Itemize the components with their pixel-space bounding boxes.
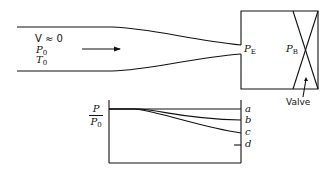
curve-label-b: b	[245, 115, 251, 125]
valve-label: Valve	[286, 98, 310, 107]
curve-label-a: a	[245, 104, 251, 114]
nozzle-diagram	[0, 0, 333, 172]
plot-ylabel: P P0	[89, 104, 103, 127]
valve-pointer	[303, 79, 306, 97]
flow-arrow-head	[114, 47, 121, 52]
curve-label-c: c	[245, 127, 251, 137]
exit-pressure-label: PE	[244, 44, 256, 54]
nozzle-bottom-wall	[17, 54, 241, 71]
curve-c	[109, 109, 241, 133]
stagnation-temperature-label: T0	[36, 55, 47, 65]
back-pressure-label: PB	[286, 44, 298, 54]
curve-label-d: d	[245, 139, 251, 149]
velocity-label: V ≈ 0	[35, 34, 63, 44]
